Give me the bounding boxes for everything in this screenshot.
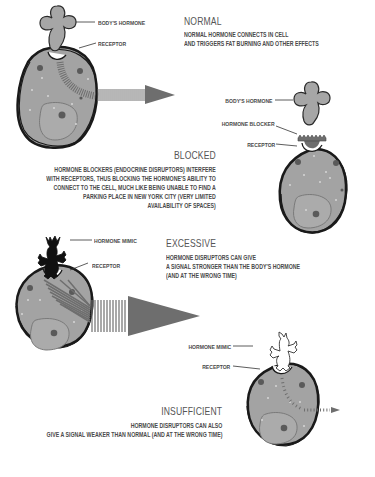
blocked-description: HORMONE BLOCKERS (ENDOCRINE DISRUPTORS) … (46, 165, 216, 210)
blocked-title: BLOCKED (174, 149, 216, 161)
insufficient-title: INSUFFICIENT (161, 405, 222, 417)
excessive-description: HORMONE DISRUPTORS CAN GIVE A SIGNAL STR… (166, 253, 300, 280)
normal-description: NORMAL HORMONE CONNECTS IN CELL AND TRIG… (184, 30, 319, 48)
normal-cell (18, 6, 175, 148)
insufficient-mimic-label: HORMONE MIMIC (188, 343, 231, 350)
blocked-blocker-label: HORMONE BLOCKER (222, 120, 275, 127)
excessive-title: EXCESSIVE (166, 237, 216, 249)
insufficient-receptor-label: RECEPTOR (202, 363, 230, 370)
blocked-cell (275, 82, 347, 233)
blocked-hormone-label: BODY'S HORMONE (226, 97, 273, 104)
insufficient-description: HORMONE DISRUPTORS CAN ALSO GIVE A SIGNA… (46, 421, 222, 439)
normal-receptor-label: RECEPTOR (98, 40, 126, 47)
normal-title: NORMAL (184, 15, 222, 27)
blocked-receptor-label: RECEPTOR (247, 141, 275, 148)
insufficient-cell (233, 332, 340, 446)
normal-hormone-label: BODY'S HORMONE (98, 19, 145, 26)
excessive-receptor-label: RECEPTOR (92, 262, 120, 269)
excessive-mimic-label: HORMONE MIMIC (94, 237, 137, 244)
